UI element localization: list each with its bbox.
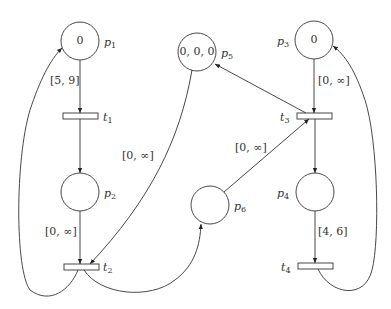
- place-p2: [61, 173, 99, 211]
- p1-label: p1: [104, 37, 116, 50]
- p5-label: p5: [221, 48, 233, 61]
- t4-label: t4: [281, 262, 291, 275]
- arc-label-p6-t3: [0, ∞]: [235, 142, 267, 153]
- p4-label: p4: [277, 188, 289, 201]
- arc-p5-t2: [90, 70, 192, 264]
- p6-label: p6: [234, 201, 246, 214]
- p2-label: p2: [104, 188, 116, 201]
- arc-t2-p6: [84, 224, 201, 292]
- arc-label-p5-t2: [0, ∞]: [122, 150, 154, 161]
- transition-t1: [63, 113, 98, 119]
- arc-t3-p5: [215, 64, 306, 113]
- p3-tokens: 0: [304, 34, 324, 45]
- arc-label-p4-t4: [4, 6]: [318, 226, 348, 237]
- arc-label-p1-t1: [5, 9]: [50, 75, 80, 86]
- transition-t4: [298, 263, 333, 269]
- t1-label: t1: [103, 112, 113, 125]
- place-p6: [191, 186, 229, 224]
- p1-tokens: 0: [70, 35, 90, 46]
- arc-label-p2-t2: [0, ∞]: [45, 226, 77, 237]
- t3-label: t3: [280, 112, 290, 125]
- p5-tokens: 0, 0, 0: [177, 46, 217, 57]
- place-p4: [296, 173, 334, 211]
- arc-p6-t3: [224, 119, 309, 192]
- t2-label: t2: [103, 262, 113, 275]
- transition-t2: [64, 264, 99, 270]
- arc-label-p3-t3: [0, ∞]: [318, 75, 350, 86]
- transition-t3: [297, 113, 332, 119]
- p3-label: p3: [277, 36, 289, 49]
